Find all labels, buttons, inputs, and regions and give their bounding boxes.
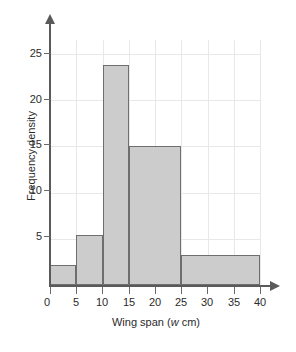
histogram-bar [103, 65, 129, 285]
x-tick-mark [76, 287, 77, 294]
x-axis-title: Wing span (w cm) [40, 316, 272, 328]
x-tick-mark [260, 287, 261, 294]
plot-area [50, 40, 260, 285]
x-tick-mark [50, 287, 51, 294]
histogram-bar [76, 235, 102, 285]
y-tick-mark [44, 99, 51, 100]
histogram-figure: 5 10 15 20 25 0 5 10 15 20 25 30 35 40 W… [0, 0, 296, 352]
gridline-vertical-40 [260, 40, 261, 285]
y-tick-mark [44, 53, 51, 54]
x-tick-label: 0 [35, 296, 59, 308]
histogram-bar [181, 255, 260, 286]
y-axis-line [49, 22, 51, 287]
gridline-vertical-25 [181, 40, 182, 285]
x-tick-label: 10 [90, 296, 114, 308]
x-axis-arrow-icon [270, 281, 280, 291]
x-tick-label: 30 [195, 296, 219, 308]
x-axis-line [49, 285, 271, 287]
gridline-vertical-30 [208, 40, 209, 285]
x-tick-mark [207, 287, 208, 294]
y-tick-mark [44, 236, 51, 237]
x-tick-label: 5 [64, 296, 88, 308]
x-tick-label: 15 [117, 296, 141, 308]
x-tick-label: 40 [248, 296, 272, 308]
y-tick-mark [44, 144, 51, 145]
x-axis-title-variable: w [171, 316, 179, 328]
x-axis-title-suffix: cm) [179, 316, 200, 328]
x-tick-label: 25 [169, 296, 193, 308]
x-tick-mark [181, 287, 182, 294]
x-tick-mark [129, 287, 130, 294]
x-tick-mark [102, 287, 103, 294]
x-tick-label: 20 [143, 296, 167, 308]
histogram-bar [129, 146, 182, 285]
x-tick-mark [234, 287, 235, 294]
gridline-vertical-35 [234, 40, 235, 285]
x-tick-label: 35 [222, 296, 246, 308]
y-axis-title: Frequency density [25, 76, 37, 236]
x-tick-mark [155, 287, 156, 294]
histogram-bar [50, 265, 76, 285]
y-tick-label: 25 [14, 48, 42, 59]
y-axis-arrow-icon [45, 14, 55, 24]
x-axis-title-prefix: Wing span ( [112, 316, 171, 328]
y-tick-mark [44, 190, 51, 191]
